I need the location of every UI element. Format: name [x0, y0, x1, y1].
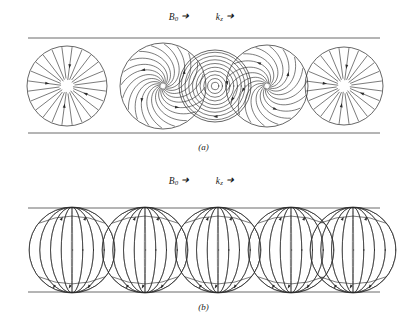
field-arrow-icon — [273, 107, 278, 110]
field-line — [259, 207, 324, 293]
field-line — [332, 207, 375, 293]
cross-section-outline — [120, 43, 206, 129]
field-line — [144, 207, 145, 293]
field-line — [319, 216, 386, 223]
field-line — [257, 277, 324, 284]
field-line — [29, 87, 60, 91]
field-line — [349, 63, 374, 82]
field-line — [193, 64, 238, 109]
field-arrow-icon — [288, 284, 291, 288]
field-line — [339, 49, 343, 79]
field-line — [217, 207, 218, 293]
field-line — [62, 48, 66, 79]
field-line — [134, 207, 156, 293]
field-arrow-icon — [68, 64, 71, 68]
field-line — [113, 207, 178, 293]
field-line — [68, 94, 72, 125]
field-line — [270, 207, 313, 293]
field-line — [152, 46, 175, 86]
field-line — [310, 207, 396, 293]
field-arrow-icon — [175, 106, 179, 109]
field-line — [345, 94, 349, 124]
field-arrow-icon — [213, 115, 217, 118]
field-line — [321, 207, 386, 293]
field-line — [256, 48, 278, 86]
cross-section-outline — [27, 46, 107, 126]
field-line — [163, 75, 203, 98]
field-line — [321, 56, 340, 81]
field-arrow-icon — [323, 82, 327, 85]
field-arrow-icon — [215, 284, 218, 288]
field-line — [111, 216, 178, 223]
field-line — [184, 216, 251, 223]
field-line — [40, 207, 105, 293]
field-arrow-icon — [45, 82, 49, 85]
field-line — [186, 207, 251, 293]
field-arrow-icon — [340, 103, 343, 107]
field-line — [310, 207, 396, 293]
field-line — [40, 207, 105, 293]
field-line — [61, 207, 83, 293]
field-line — [270, 46, 283, 87]
field-line — [256, 86, 278, 124]
field-line — [200, 71, 230, 101]
cross-section-a-1 — [120, 43, 206, 129]
field-lines — [227, 46, 306, 125]
field-line — [71, 207, 72, 293]
field-lines — [310, 207, 396, 293]
field-arrow-icon — [141, 98, 144, 102]
field-line — [280, 207, 302, 293]
field-line — [352, 207, 353, 293]
field-line — [71, 91, 91, 117]
cross-section-a-0 — [27, 46, 107, 126]
cross-section-b-4 — [310, 207, 396, 293]
field-line — [348, 91, 367, 116]
field-line — [260, 87, 290, 118]
field-line — [186, 207, 251, 293]
field-arrow-icon — [83, 93, 88, 96]
field-line — [307, 87, 337, 91]
field-line — [251, 85, 264, 126]
field-line — [164, 44, 179, 87]
field-line — [147, 85, 162, 128]
field-line — [314, 90, 339, 109]
field-line — [342, 207, 364, 293]
field-line — [319, 277, 386, 284]
field-arrow-icon — [142, 284, 145, 288]
field-line — [352, 81, 382, 85]
field-arrow-icon — [257, 62, 262, 65]
field-line — [290, 207, 291, 293]
field-line — [38, 277, 105, 284]
field-line — [259, 207, 324, 293]
field-arrow-icon — [345, 65, 348, 69]
field-line — [123, 75, 163, 98]
field-lines — [121, 44, 204, 127]
field-line — [207, 207, 229, 293]
field-lines — [29, 48, 106, 125]
field-line — [197, 207, 240, 293]
cross-section-a-4 — [305, 47, 383, 125]
cross-section-a-3 — [226, 45, 308, 127]
field-line — [36, 90, 62, 110]
field-arrow-icon — [69, 284, 72, 288]
field-line — [152, 86, 175, 126]
field-line — [111, 277, 178, 284]
field-line — [189, 60, 242, 113]
field-line — [72, 62, 98, 82]
field-line — [211, 82, 219, 90]
field-line — [113, 207, 178, 293]
cross-section-outline — [310, 207, 396, 293]
field-arrow-icon — [350, 284, 353, 288]
field-line — [51, 207, 94, 293]
cross-section-outline — [305, 47, 383, 125]
field-line — [257, 216, 324, 223]
figure-root: B0➜ kz➜ (a) B0➜ kz➜ (b) — [0, 0, 407, 323]
field-line — [204, 75, 227, 98]
field-line — [43, 55, 63, 81]
field-line — [75, 81, 106, 85]
field-line — [124, 207, 167, 293]
field-line — [185, 56, 245, 116]
field-line — [321, 207, 386, 293]
field-arrow-icon — [63, 103, 66, 107]
field-arrow-icon — [360, 93, 365, 96]
